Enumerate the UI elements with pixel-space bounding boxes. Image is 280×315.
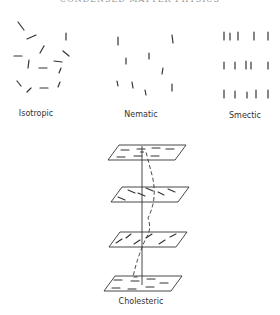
label-cholesteric: Cholesteric <box>119 297 164 306</box>
molecule-rod <box>63 51 69 56</box>
molecule-rod <box>145 90 146 95</box>
molecule-rod <box>59 68 61 73</box>
molecule-rod <box>132 82 133 88</box>
molecule-rod <box>40 46 44 53</box>
molecule-rod <box>162 68 163 74</box>
helix-director-path <box>133 152 154 277</box>
smectic-molecules <box>224 32 268 98</box>
molecule-rod <box>117 81 118 86</box>
molecule-rod <box>27 35 36 39</box>
molecule-rod <box>18 22 24 30</box>
molecule-rod <box>172 35 173 43</box>
layer-plane <box>104 276 182 291</box>
label-smectic: Smectic <box>229 111 261 120</box>
layer-plane <box>108 145 186 160</box>
molecule-rod <box>27 88 31 92</box>
label-nematic: Nematic <box>124 110 157 119</box>
molecule-rod <box>58 82 60 87</box>
label-isotropic: Isotropic <box>19 109 53 118</box>
liquid-crystal-phases-diagram <box>0 0 280 315</box>
molecule-rod <box>17 81 21 86</box>
isotropic-molecules <box>14 22 69 92</box>
cholesteric-stack <box>104 145 189 291</box>
nematic-molecules <box>117 35 173 95</box>
molecule-rod <box>28 60 29 68</box>
molecule-rod <box>54 61 62 62</box>
